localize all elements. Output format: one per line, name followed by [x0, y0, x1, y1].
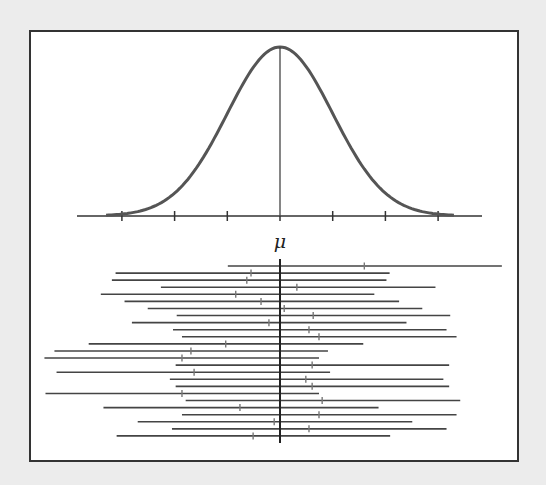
interval-row	[186, 397, 461, 404]
interval-row	[170, 376, 444, 383]
interval-row	[116, 270, 390, 277]
interval-row	[173, 326, 447, 333]
interval-row	[112, 277, 387, 284]
mu-label: μ	[268, 230, 292, 252]
interval-row	[44, 355, 319, 362]
interval-row	[228, 263, 502, 270]
interval-row	[182, 411, 457, 418]
interval-row	[89, 340, 364, 347]
interval-row	[182, 333, 457, 340]
interval-row	[54, 347, 328, 354]
interval-row	[45, 390, 319, 397]
interval-row	[172, 425, 447, 432]
interval-row	[176, 362, 450, 369]
interval-row	[138, 418, 413, 425]
interval-row	[125, 298, 400, 305]
interval-row	[103, 404, 378, 411]
interval-row	[177, 312, 451, 319]
interval-row	[132, 319, 407, 326]
interval-row	[176, 383, 450, 390]
normal-curve-plot	[77, 47, 482, 221]
interval-row	[57, 369, 331, 376]
interval-row	[101, 291, 375, 298]
interval-row	[161, 284, 436, 291]
interval-row	[117, 432, 391, 439]
interval-row	[148, 305, 423, 312]
confidence-intervals	[44, 263, 501, 440]
